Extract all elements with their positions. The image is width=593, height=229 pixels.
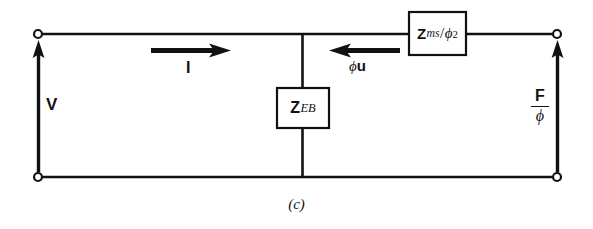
- velocity-phi-symbol: ϕ: [349, 58, 357, 74]
- series-impedance-denominator: ϕ: [445, 25, 453, 42]
- terminal-top-left: [34, 30, 42, 38]
- force-denominator: ϕ: [529, 108, 551, 125]
- shunt-impedance-label: ZEB: [277, 88, 329, 128]
- terminal-bottom-right: [553, 173, 561, 181]
- series-impedance-label: Zms/ϕ2: [409, 12, 466, 55]
- current-arrow: [151, 44, 231, 58]
- voltage-arrow: [33, 40, 45, 172]
- force-over-phi-label: F ϕ: [529, 88, 551, 125]
- circuit-diagram-figure: V I ϕu F ϕ ZEB Zms/ϕ2 (c): [0, 0, 593, 229]
- velocity-u-symbol: u: [357, 57, 366, 74]
- shunt-impedance-symbol: Z: [290, 99, 300, 117]
- current-label: I: [186, 60, 190, 76]
- series-impedance-symbol: Z: [417, 25, 426, 42]
- velocity-arrow: [329, 44, 400, 58]
- series-impedance-exponent: 2: [453, 28, 458, 40]
- shunt-impedance-subscript: EB: [300, 101, 316, 116]
- force-numerator: F: [529, 88, 551, 105]
- series-impedance-subscript: ms: [426, 27, 439, 40]
- terminal-bottom-left: [34, 173, 42, 181]
- velocity-label: ϕu: [349, 58, 366, 74]
- force-arrow: [552, 40, 564, 172]
- figure-caption: (c): [0, 196, 593, 213]
- terminal-top-right: [553, 30, 561, 38]
- source-voltage-label: V: [46, 96, 57, 113]
